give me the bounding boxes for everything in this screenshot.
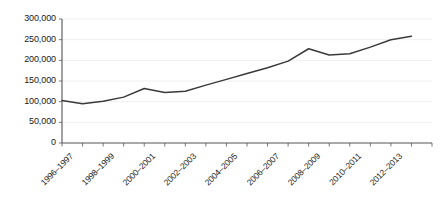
y-tick-label: 200,000 [24, 54, 56, 64]
y-tick-label: 50,000 [29, 116, 56, 126]
line-chart: 050,000100,000150,000200,000250,000300,0… [0, 0, 441, 207]
data-series-line [62, 36, 411, 103]
y-tick-label: 0 [51, 137, 56, 147]
y-tick-label: 250,000 [24, 34, 56, 44]
y-tick-label: 150,000 [24, 75, 56, 85]
gridlines [62, 19, 432, 122]
y-tick-label: 300,000 [24, 13, 56, 23]
y-tick-label: 100,000 [24, 96, 56, 106]
